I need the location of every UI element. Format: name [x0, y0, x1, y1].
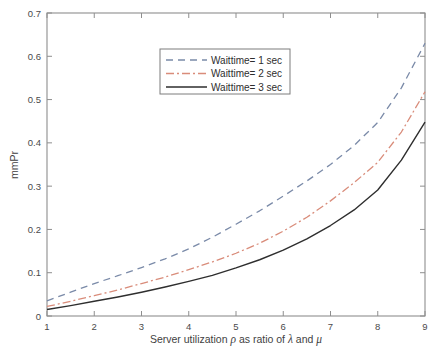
series-line-2 — [47, 92, 425, 307]
y-tick-label: 0 — [36, 311, 41, 322]
y-tick-label: 0.7 — [28, 8, 41, 19]
x-tick-label: 9 — [422, 321, 427, 332]
x-tick-label: 3 — [139, 321, 144, 332]
y-tick-label: 0.5 — [28, 94, 41, 105]
x-tick-label: 1 — [44, 321, 49, 332]
legend-label-2: Waittime= 2 sec — [211, 68, 282, 79]
x-axis-title-pre: Server utilization — [150, 333, 231, 345]
y-tick-label: 0.2 — [28, 224, 41, 235]
x-tick-label: 5 — [233, 321, 238, 332]
chart-legend: Waittime= 1 secWaittime= 2 secWaittime= … — [160, 49, 290, 94]
x-tick-label: 7 — [328, 321, 333, 332]
x-tick-label: 4 — [186, 321, 191, 332]
line-chart: 00.10.20.30.40.50.60.7 123456789 mmPr Se… — [0, 0, 442, 351]
y-tick-label: 0.3 — [28, 181, 41, 192]
x-axis-title-mid: as ratio of — [236, 333, 288, 345]
x-tick-label: 8 — [375, 321, 380, 332]
y-tick-label: 0.1 — [28, 267, 41, 278]
x-axis-title-and: and — [293, 333, 316, 345]
series-line-3 — [47, 122, 425, 309]
x-tick-label: 2 — [92, 321, 97, 332]
legend-label-3: Waittime= 3 sec — [211, 82, 282, 93]
y-tick-labels: 00.10.20.30.40.50.60.7 — [28, 8, 41, 322]
x-tick-label: 6 — [281, 321, 286, 332]
y-tick-label: 0.4 — [28, 137, 41, 148]
chart-figure: 00.10.20.30.40.50.60.7 123456789 mmPr Se… — [0, 0, 442, 351]
y-tick-label: 0.6 — [28, 51, 41, 62]
legend-label-1: Waittime= 1 sec — [211, 55, 282, 66]
legend-entries: Waittime= 1 secWaittime= 2 secWaittime= … — [166, 55, 282, 93]
mu-symbol: μ — [315, 333, 322, 346]
y-axis-title: mmPr — [8, 151, 20, 179]
x-axis-title: Server utilization ρ as ratio of λ and μ — [150, 333, 322, 346]
x-tick-labels: 123456789 — [44, 321, 427, 332]
